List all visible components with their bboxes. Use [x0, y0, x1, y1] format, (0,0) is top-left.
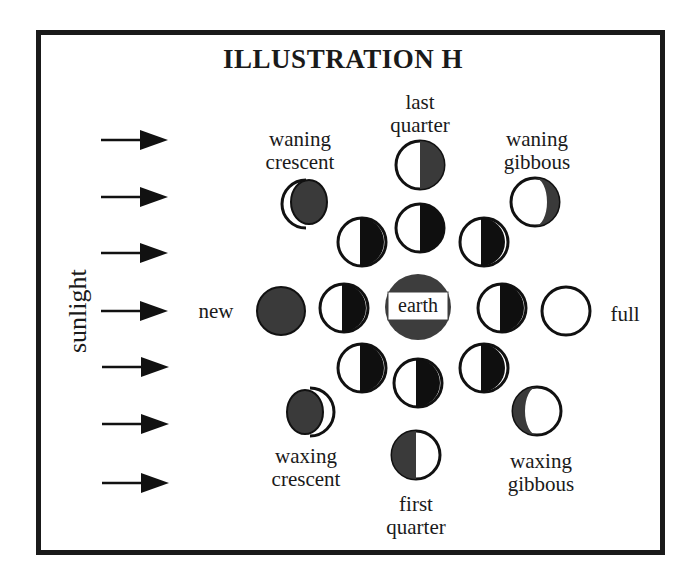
waning-crescent-moon-icon: [282, 180, 327, 228]
label-new: new: [186, 300, 246, 323]
orbit-moon-right-icon: [478, 284, 526, 332]
last-quarter-moon-icon: [396, 141, 444, 189]
sunlight-arrow-icon: [102, 473, 169, 493]
orbit-moon-top-icon: [396, 204, 444, 252]
sunlight-arrows: [101, 130, 169, 493]
waxing-gibbous-moon-icon: [513, 387, 561, 435]
orbit-moon-top-left-icon: [338, 218, 386, 266]
orbit-moon-bottom-left-icon: [338, 344, 386, 392]
label-full: full: [600, 303, 650, 326]
sunlight-arrow-icon: [101, 130, 168, 150]
waxing-crescent-moon-icon: [287, 388, 334, 436]
sunlight-arrow-icon: [101, 187, 168, 207]
label-waxing-gibbous: waxing gibbous: [486, 450, 596, 496]
sunlight-arrow-icon: [101, 301, 168, 321]
label-waxing-crescent: waxing crescent: [246, 445, 366, 491]
earth-label: earth: [388, 294, 448, 317]
label-waning-crescent: waning crescent: [240, 128, 360, 174]
new-moon-icon: [257, 287, 305, 335]
full-moon-icon: [542, 287, 590, 335]
first-quarter-moon-icon: [392, 431, 440, 479]
sunlight-arrow-icon: [102, 357, 169, 377]
label-first-quarter: first quarter: [366, 493, 466, 539]
orbit-moon-left-icon: [320, 284, 368, 332]
orbit-moon-bottom-right-icon: [460, 344, 508, 392]
label-last-quarter: last quarter: [370, 91, 470, 137]
orbit-moon-top-right-icon: [460, 218, 508, 266]
orbit-moon-bottom-icon: [394, 359, 442, 407]
label-waning-gibbous: waning gibbous: [482, 128, 592, 174]
sunlight-arrow-icon: [101, 243, 168, 263]
sunlight-arrow-icon: [102, 414, 169, 434]
waning-gibbous-moon-icon: [511, 178, 559, 226]
